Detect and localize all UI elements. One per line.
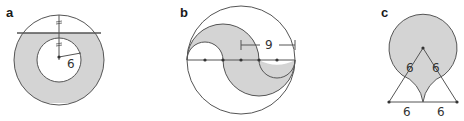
figure-c-apex-dot (421, 46, 424, 49)
figure-c: c 6 6 6 6 (381, 5, 459, 119)
figure-b: b 9 (180, 5, 295, 114)
diagram-canvas: a 6 b (0, 0, 464, 121)
figure-c-left-base-dot (387, 100, 390, 103)
figure-c-right-side-label: 6 (432, 61, 440, 75)
figure-b-dimension-label: 9 (265, 38, 273, 52)
figure-c-right-base-dot (455, 100, 458, 103)
figure-b-label: b (180, 5, 188, 20)
figure-c-label: c (381, 5, 388, 20)
figure-a-label: a (6, 5, 14, 20)
figure-c-base-left-label: 6 (403, 105, 411, 119)
figure-a-center-dot (57, 55, 60, 58)
figure-c-left-side-label: 6 (406, 61, 414, 75)
figure-c-shaded-region (389, 14, 457, 102)
figure-c-base-right-label: 6 (437, 105, 445, 119)
figure-a-radius-label: 6 (67, 57, 75, 71)
figure-a: a 6 (6, 5, 104, 105)
